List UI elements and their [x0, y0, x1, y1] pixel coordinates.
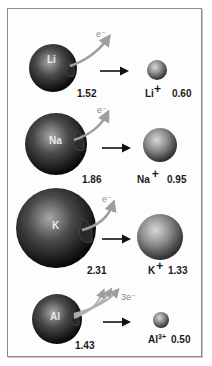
ion-sphere-k	[137, 214, 183, 260]
atom-radius-k: 2.31	[87, 265, 107, 276]
ionic-radius-diagram: Li e⁻ 1.52 Li+ 0.60 Na e⁻ 1.86 Na+ 0.95 …	[0, 0, 212, 366]
electron-label-na: e⁻	[97, 105, 107, 115]
atom-label-al: Al	[50, 311, 60, 322]
ion-radius-li: 0.60	[172, 88, 192, 99]
atom-radius-li: 1.52	[77, 88, 97, 99]
ion-label-k: K+	[148, 259, 163, 276]
row-k: K e⁻ 2.31 K+ 1.33	[16, 188, 188, 276]
electron-label-k: e⁻	[102, 194, 112, 204]
atom-label-k: K	[52, 220, 60, 231]
ion-sphere-al	[153, 312, 169, 328]
atom-label-na: Na	[49, 135, 62, 146]
electron-label-li: e⁻	[96, 29, 106, 39]
ion-radius-na: 0.95	[167, 174, 187, 185]
ion-sphere-li	[147, 60, 167, 80]
atom-radius-al: 1.43	[75, 340, 95, 351]
ion-radius-al: 0.50	[171, 334, 191, 345]
ion-radius-k: 1.33	[168, 265, 188, 276]
electron-label-al: 3e⁻	[121, 292, 136, 302]
ion-label-li: Li+	[145, 82, 161, 99]
ion-label-al: Al3+	[148, 333, 166, 345]
atom-label-li: Li	[47, 54, 56, 65]
row-na: Na e⁻ 1.86 Na+ 0.95	[25, 105, 187, 185]
row-al: Al 3e⁻ 1.43 Al3+ 0.50	[32, 291, 191, 351]
row-li: Li e⁻ 1.52 Li+ 0.60	[29, 29, 192, 99]
atom-radius-na: 1.86	[82, 174, 102, 185]
ion-sphere-na	[143, 128, 177, 162]
ion-label-na: Na+	[137, 167, 159, 185]
